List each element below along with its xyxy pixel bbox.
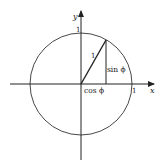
cosine-label: cos ϕ: [84, 86, 104, 95]
hypotenuse-label: 1: [91, 52, 95, 60]
unit-circle-diagram: y 1 1 sin ϕ cos ϕ 1 x: [0, 0, 161, 163]
y-tick-label: 1: [76, 26, 80, 34]
x-tick-label: 1: [132, 87, 136, 95]
radius-line: [81, 40, 106, 84]
x-axis-label: x: [150, 86, 155, 95]
diagram-canvas: y 1 1 sin ϕ cos ϕ 1 x: [0, 0, 161, 163]
y-axis-label: y: [72, 12, 78, 21]
sine-label: sin ϕ: [107, 65, 126, 74]
